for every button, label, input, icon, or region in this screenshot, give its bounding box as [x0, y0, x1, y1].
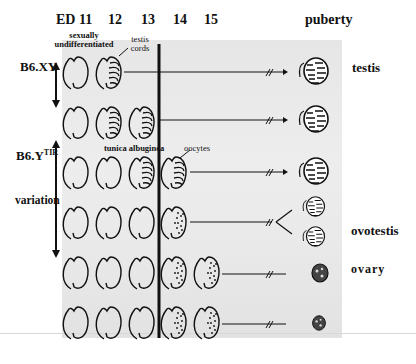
- diagram-graphics: [0, 0, 416, 364]
